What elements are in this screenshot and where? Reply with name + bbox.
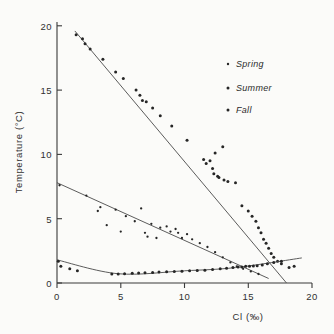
data-point [58, 184, 60, 186]
data-point [254, 220, 257, 223]
data-point [151, 271, 154, 274]
chart-legend: Spring Summer Fall [227, 59, 273, 115]
x-axis-ticks [57, 283, 312, 288]
data-point [237, 265, 240, 268]
data-point [223, 179, 226, 182]
data-point [146, 236, 148, 238]
data-point [206, 246, 208, 248]
data-point [270, 252, 273, 255]
data-point [214, 152, 217, 155]
data-point [272, 256, 275, 259]
data-point [293, 265, 296, 268]
data-point [155, 237, 157, 239]
data-point [173, 270, 176, 273]
data-point [174, 228, 176, 230]
data-point [211, 167, 214, 170]
data-point [250, 270, 252, 272]
data-point [203, 269, 206, 272]
data-point [143, 271, 146, 274]
x-axis-tick-labels: 0 5 10 15 20 [54, 291, 318, 302]
data-point [260, 231, 263, 234]
scatter-plot: 0 5 10 15 20 0 5 10 15 20 Temperature (°… [0, 0, 334, 334]
data-point [247, 209, 250, 212]
data-point [229, 261, 231, 263]
trend-line-spring [57, 183, 269, 279]
data-point [135, 89, 138, 92]
y-tick-label-10: 10 [40, 149, 52, 160]
data-point [106, 224, 108, 226]
data-point [191, 238, 193, 240]
data-series-layer [57, 31, 302, 283]
plot-axes [57, 22, 312, 283]
data-point [199, 242, 201, 244]
data-point [280, 262, 283, 265]
y-tick-label-0: 0 [46, 278, 52, 289]
data-point [75, 33, 78, 36]
data-point [202, 158, 205, 161]
data-point [68, 267, 71, 270]
data-point [137, 271, 140, 274]
data-point [101, 58, 104, 61]
data-point [159, 227, 161, 229]
data-point [180, 270, 183, 273]
data-point [89, 47, 92, 50]
y-axis-ticks [57, 26, 62, 283]
legend-label-summer: Summer [236, 83, 273, 93]
data-point [158, 271, 161, 274]
series-fall [57, 258, 302, 276]
data-point [196, 269, 199, 272]
series-spring [57, 183, 269, 279]
data-point [150, 223, 152, 225]
y-tick-label-20: 20 [40, 21, 52, 32]
x-tick-label-10: 10 [179, 291, 191, 302]
data-point [85, 194, 87, 196]
data-point [165, 270, 168, 273]
data-point [115, 209, 117, 211]
data-point [244, 265, 247, 268]
data-point [248, 265, 251, 268]
data-point [120, 230, 122, 232]
data-point [181, 237, 183, 239]
data-point [138, 94, 141, 97]
x-tick-label-15: 15 [243, 291, 255, 302]
y-tick-label-15: 15 [40, 85, 52, 96]
data-point [221, 145, 224, 148]
chart-figure: 0 5 10 15 20 0 5 10 15 20 Temperature (°… [0, 0, 334, 334]
y-tick-label-5: 5 [46, 214, 52, 225]
data-point [186, 139, 189, 142]
data-point [166, 225, 168, 227]
data-point [226, 180, 229, 183]
data-point [211, 268, 214, 271]
data-point [225, 267, 228, 270]
data-point [205, 162, 208, 165]
data-point [240, 204, 243, 207]
data-point [99, 206, 101, 208]
data-point [266, 262, 269, 265]
data-point [84, 42, 87, 45]
data-point [159, 114, 162, 117]
data-point [114, 71, 117, 74]
x-tick-label-5: 5 [118, 291, 124, 302]
data-point [170, 125, 173, 128]
data-point [234, 181, 237, 184]
data-point [169, 230, 171, 232]
data-point [231, 266, 234, 269]
data-point [222, 256, 224, 258]
legend-marker-fall [227, 109, 230, 112]
legend-label-spring: Spring [236, 59, 264, 69]
data-point [151, 107, 154, 110]
data-point [122, 77, 125, 80]
x-tick-label-20: 20 [306, 291, 318, 302]
trend-line-fall [57, 258, 302, 274]
data-point [272, 261, 275, 264]
legend-label-fall: Fall [236, 105, 252, 115]
data-point [144, 232, 146, 234]
data-point [188, 269, 191, 272]
data-point [251, 215, 254, 218]
data-point [262, 238, 265, 241]
data-point [59, 265, 62, 268]
data-point [261, 264, 264, 267]
data-point [267, 247, 270, 250]
data-point [97, 210, 99, 212]
data-point [240, 265, 243, 268]
